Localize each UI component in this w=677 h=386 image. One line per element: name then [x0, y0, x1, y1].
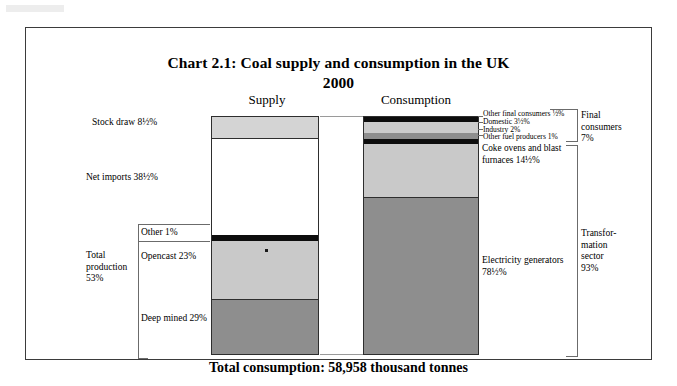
label-opencast: Opencast 23% — [141, 251, 221, 263]
leader-line-top — [320, 116, 363, 117]
label-other-fuel-producers: Other fuel producers 1% — [483, 133, 558, 142]
label-final-consumers: Final consumers 7% — [581, 110, 641, 145]
leader-line-bottom — [320, 354, 363, 355]
supply-segment-deep-mined — [212, 299, 318, 354]
tick-other-final-consumers — [478, 116, 483, 117]
consumption-bar — [363, 116, 479, 355]
chart-subtitle: 2000 — [26, 74, 651, 92]
total-consumption-caption: Total consumption: 58,958 thousand tonne… — [26, 360, 651, 376]
consumption-segment-domestic — [364, 122, 478, 133]
bracket-total-production — [138, 224, 139, 358]
label-transformation-sector: Transfor- mation sector 93% — [581, 228, 643, 274]
tick-other-fuel-producers — [478, 135, 483, 136]
ink-speck — [265, 249, 268, 252]
label-net-imports: Net imports 38½% — [86, 172, 206, 184]
column-heading-consumption: Consumption — [356, 92, 476, 108]
bracket-other-divider — [138, 241, 210, 242]
supply-segment-opencast — [212, 241, 318, 299]
bracket-final-consumers-lead — [550, 109, 568, 110]
label-stock-draw: Stock draw 8½% — [92, 117, 212, 129]
bracket-total-production-bottom — [138, 358, 148, 359]
bracket-final-consumers-bottom — [566, 141, 578, 142]
bracket-transformation-sector — [577, 145, 578, 357]
label-electricity-generators: Electricity generators 78½% — [482, 255, 577, 278]
label-deep-mined: Deep mined 29% — [141, 313, 231, 325]
bracket-final-consumers — [577, 109, 578, 142]
chart-title: Chart 2.1: Coal supply and consumption i… — [26, 54, 651, 72]
bracket-total-production-top — [138, 224, 210, 225]
column-heading-supply: Supply — [222, 92, 312, 108]
bracket-transformation-sector-bottom — [566, 356, 578, 357]
tick-industry — [478, 129, 483, 130]
tick-domestic — [478, 122, 483, 123]
scan-artifact — [6, 5, 64, 12]
label-coke-ovens: Coke ovens and blast furnaces 14½% — [482, 143, 574, 166]
chart-frame: Chart 2.1: Coal supply and consumption i… — [25, 27, 652, 360]
supply-segment-net-imports — [212, 138, 318, 234]
label-total-production: Total production 53% — [86, 250, 142, 285]
label-other: Other 1% — [141, 227, 211, 239]
consumption-segment-coke-ovens — [364, 144, 478, 198]
consumption-segment-electricity-generators — [364, 197, 478, 354]
supply-segment-stock-draw — [212, 117, 318, 138]
